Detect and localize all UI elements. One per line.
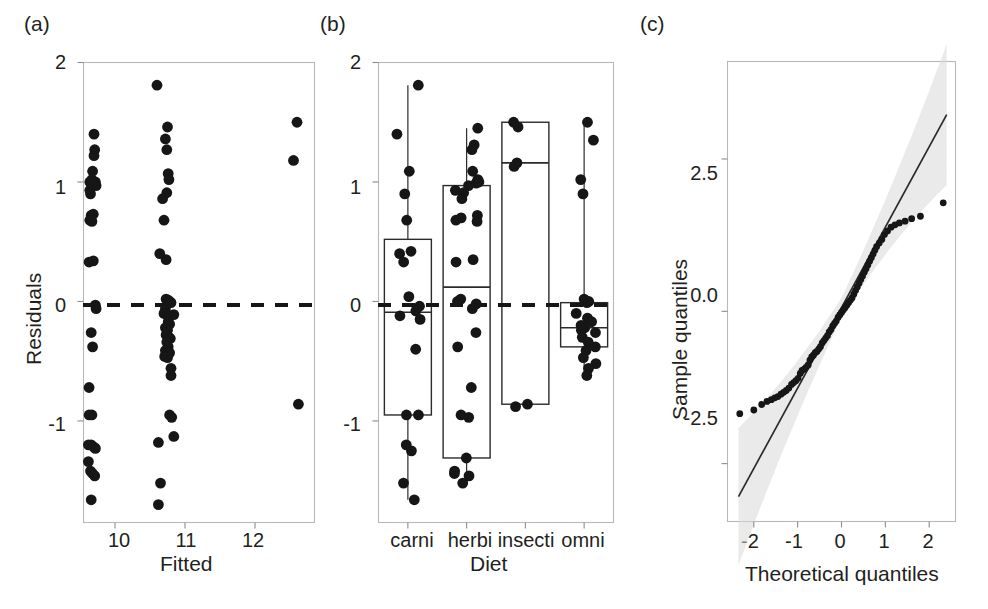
figure-root: (a) Residuals Fitted 2 1 0 -1 10 11 12 (…	[0, 0, 988, 609]
panel-c-plot-area	[0, 0, 988, 609]
panel-c-point-cloud	[736, 199, 946, 417]
